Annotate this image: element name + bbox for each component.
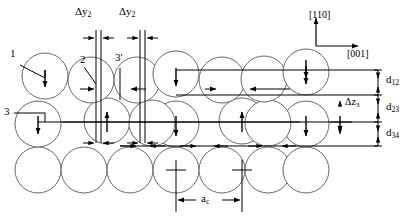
atom-sphere [114, 57, 160, 103]
delta-z3-label: Δz3 [345, 97, 359, 109]
atom-sphere [107, 147, 153, 193]
figure-canvas: Δy2 Δy2 [110] [001] 1 2 3' 3 Δz3 d12 d23… [0, 0, 411, 220]
layer-spacing-gauges [374, 70, 382, 146]
callout-label-3-prime: 3' [115, 52, 122, 63]
atom-sphere [199, 57, 245, 103]
atom-sphere [129, 100, 175, 146]
delta-y2-label-left: Δy2 [75, 6, 91, 19]
atom-sphere [61, 147, 107, 193]
atom-sphere [283, 147, 329, 193]
atom-sphere [15, 147, 61, 193]
lattice-constant-label: ac [201, 193, 209, 206]
spacing-label-d34: d34 [386, 127, 399, 140]
callout-label-2: 2 [80, 54, 86, 65]
spacing-label-d23: d23 [386, 101, 399, 114]
crystal-diagram-svg [0, 0, 411, 220]
atom-sphere [245, 100, 291, 146]
callout-label-1: 1 [10, 48, 16, 59]
spacing-label-d12: d12 [386, 74, 399, 87]
callout-label-3: 3 [4, 106, 10, 117]
delta-y2-label-right: Δy2 [119, 6, 135, 19]
axis-label-001: [001] [347, 49, 369, 59]
atom-sphere [68, 57, 114, 103]
axis-tripod [316, 18, 358, 46]
axis-label-110: [110] [309, 10, 330, 20]
